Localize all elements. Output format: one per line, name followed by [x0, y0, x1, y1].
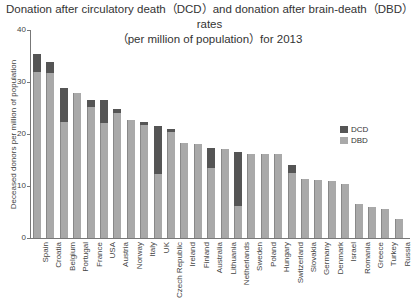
y-tick-label: 10	[0, 181, 26, 190]
bar-segment-dbd	[221, 149, 229, 238]
x-tick-label: Greece	[376, 242, 385, 305]
bar-segment-dcd	[288, 165, 296, 173]
x-axis	[30, 238, 410, 239]
bar-segment-dbd	[314, 180, 322, 238]
chart-title-line1: Donation after circulatory death（DCD）and…	[0, 2, 419, 32]
legend-swatch-dbd	[340, 137, 348, 144]
bar-segment-dbd	[127, 120, 135, 238]
chart-title: Donation after circulatory death（DCD）and…	[0, 2, 419, 47]
x-tick-label: UK	[162, 242, 171, 305]
bar-segment-dbd	[368, 207, 376, 238]
x-tick-label: France	[95, 242, 104, 305]
bar-segment-dbd	[301, 179, 309, 238]
bar-segment-dcd	[33, 54, 41, 71]
bar-segment-dbd	[140, 125, 148, 238]
x-tick-label: Italy	[148, 242, 157, 305]
x-tick-label: Romania	[363, 242, 372, 305]
bar-segment-dcd	[234, 152, 242, 206]
x-tick-label: Czech Republic	[175, 242, 184, 305]
legend-swatch-dcd	[340, 126, 348, 133]
x-tick-label: Israel	[349, 242, 358, 305]
legend-label-dbd: DBD	[351, 136, 368, 145]
x-tick-label: Germany	[322, 242, 331, 305]
x-tick-label: USA	[108, 242, 117, 305]
bar-segment-dcd	[60, 88, 68, 122]
x-tick-label: Finland	[202, 242, 211, 305]
bar-segment-dbd	[60, 122, 68, 238]
x-tick-label: Denmark	[336, 242, 345, 305]
x-tick-label: Austria	[121, 242, 130, 305]
x-tick-label: Turkey	[389, 242, 398, 305]
bar-segment-dbd	[194, 144, 202, 238]
bar-segment-dbd	[33, 72, 41, 238]
x-tick-label: Lithuania	[229, 242, 238, 305]
x-tick-label: Belgium	[68, 242, 77, 305]
x-tick-label: Ireland	[188, 242, 197, 305]
y-axis	[30, 30, 31, 239]
bar-segment-dbd	[328, 181, 336, 238]
x-tick-label: Slovakia	[309, 242, 318, 305]
y-tick-mark	[27, 30, 30, 31]
bar-segment-dcd	[113, 109, 121, 113]
bar-segment-dbd	[113, 113, 121, 238]
bar-segment-dbd	[288, 173, 296, 238]
bar-segment-dbd	[274, 154, 282, 238]
bar-segment-dbd	[180, 143, 188, 238]
bar-segment-dbd	[341, 184, 349, 238]
bar-segment-dcd	[167, 129, 175, 132]
y-tick-mark	[27, 82, 30, 83]
bar-segment-dbd	[73, 93, 81, 238]
bar-segment-dcd	[207, 148, 215, 168]
x-tick-label: Spain	[41, 242, 50, 305]
bar-segment-dbd	[247, 154, 255, 238]
bar-segment-dbd	[167, 132, 175, 238]
bar-segment-dcd	[100, 100, 108, 122]
legend-item-dcd: DCD	[340, 124, 368, 135]
bar-segment-dbd	[87, 107, 95, 238]
y-tick-label: 30	[0, 77, 26, 86]
bar-segment-dbd	[207, 168, 215, 238]
y-tick-mark	[27, 186, 30, 187]
y-tick-label: 40	[0, 25, 26, 34]
y-tick-label: 20	[0, 129, 26, 138]
y-tick-mark	[27, 134, 30, 135]
x-tick-label: Poland	[269, 242, 278, 305]
x-tick-label: Sweden	[255, 242, 264, 305]
bar-segment-dcd	[46, 62, 54, 73]
bar-segment-dbd	[381, 209, 389, 238]
bar-segment-dbd	[154, 174, 162, 238]
bar-segment-dcd	[140, 122, 148, 125]
bar-segment-dcd	[154, 126, 162, 174]
bar-segment-dbd	[355, 204, 363, 238]
legend-item-dbd: DBD	[340, 135, 368, 146]
x-tick-label: Hungary	[282, 242, 291, 305]
bar-segment-dcd	[87, 100, 95, 107]
bar-segment-dbd	[395, 219, 403, 238]
bar-segment-dbd	[100, 123, 108, 238]
chart-title-line2: （per million of population）for 2013	[0, 32, 419, 47]
legend: DCD DBD	[340, 124, 368, 146]
x-tick-label: Australia	[215, 242, 224, 305]
bar-segment-dbd	[261, 154, 269, 238]
y-tick-label: 0	[0, 233, 26, 242]
x-tick-label: Portugal	[81, 242, 90, 305]
x-tick-label: Switzerland	[296, 242, 305, 305]
x-tick-label: Croatia	[54, 242, 63, 305]
x-tick-label: Norway	[135, 242, 144, 305]
y-tick-mark	[27, 238, 30, 239]
bar-segment-dbd	[46, 73, 54, 238]
x-tick-label: Netherlands	[242, 242, 251, 305]
x-tick-label: Russia	[403, 242, 412, 305]
bar-segment-dbd	[234, 206, 242, 238]
legend-label-dcd: DCD	[351, 125, 368, 134]
